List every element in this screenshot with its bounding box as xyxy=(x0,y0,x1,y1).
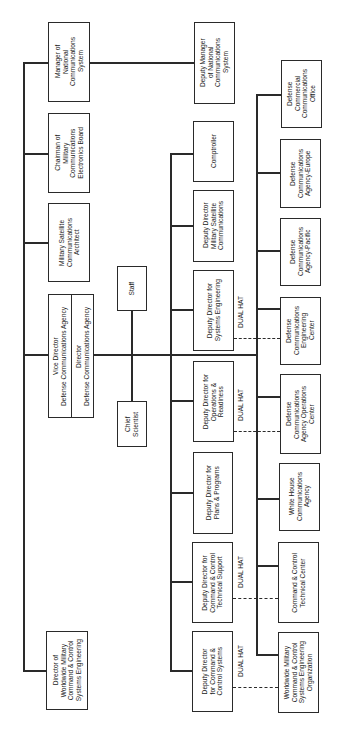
connector xyxy=(170,400,193,402)
dual-hat-label: DUAL HAT xyxy=(237,556,245,588)
connector xyxy=(89,62,194,64)
vice-director-section: Vice Director Defense Communications Age… xyxy=(49,295,72,417)
wwmccs-seo-box: Worldwide Military Command & Control Sys… xyxy=(278,632,319,713)
dca-pacific-box: Defense Communications Agency-Pacific xyxy=(280,218,321,286)
connector xyxy=(256,94,281,96)
dd-plans-programs-label: Deputy Director for Plans & Programs xyxy=(205,465,220,520)
mil-sat-architect-label: Military Satellite Communications Archit… xyxy=(58,218,81,267)
connector xyxy=(23,242,49,244)
dd-sys-eng-label: Deputy Director for Systems Engineering xyxy=(206,279,221,341)
connector xyxy=(170,309,193,311)
connector xyxy=(256,565,279,567)
manager-ncs-box: Manager of National Communications Syste… xyxy=(48,22,90,102)
connector xyxy=(256,498,280,500)
connector xyxy=(170,581,193,583)
dcco-box: Defense Commercial Communications Office xyxy=(281,60,322,128)
dca-europe-label: Defense Communications Agency-Europe xyxy=(289,149,312,198)
connector xyxy=(256,250,281,252)
deputy-manager-ncs-box: Deputy Manager of National Communication… xyxy=(194,22,235,104)
chairman-mceb-label: Chairman of Military Communications Elec… xyxy=(54,127,84,179)
staff-stem xyxy=(131,310,133,402)
whca-label: White House Communications Agency xyxy=(288,472,311,521)
connector xyxy=(170,225,193,227)
connector xyxy=(23,153,49,155)
chief-scientist-box: Chief Scientist xyxy=(117,401,147,447)
whca-box: White House Communications Agency xyxy=(279,463,320,531)
dd-cc-systems-label: Deputy Director for Command & Control Sy… xyxy=(201,647,224,695)
dca-ops-center-label: Defense Communications Agency Operations… xyxy=(285,386,315,442)
staff-box: Staff xyxy=(117,266,147,311)
middle-bus-line xyxy=(170,153,172,671)
dual-hat-connector xyxy=(233,687,278,688)
right-bus-line xyxy=(256,94,258,655)
vice-director-dca-label: Vice Director Defense Communications Age… xyxy=(52,307,67,406)
dd-cc-systems-box: Deputy Director for Command & Control Sy… xyxy=(192,631,233,712)
connector xyxy=(23,670,47,672)
dd-mil-sat-label: Deputy Director Military Satellite Commu… xyxy=(202,201,225,250)
dd-cc-tech-support-label: Deputy Director for Command & Control Te… xyxy=(201,553,224,613)
director-dca-label: Director Defense Communications Agency xyxy=(75,307,90,406)
connector xyxy=(23,62,49,64)
connector xyxy=(256,172,281,174)
connector xyxy=(256,308,281,310)
dd-plans-programs-box: Deputy Director for Plans & Programs xyxy=(193,452,233,534)
connector xyxy=(170,492,193,494)
connector xyxy=(256,396,281,398)
director-wwmccs-eng-label: Director of Worldwide Military Command &… xyxy=(52,639,82,701)
dd-ops-readiness-box: Deputy Director for Operations & Readine… xyxy=(193,361,234,442)
connector xyxy=(170,670,193,672)
dual-hat-label: DUAL HAT xyxy=(237,296,245,328)
staff-label: Staff xyxy=(128,282,136,295)
dcco-label: Defense Commercial Communications Office xyxy=(286,69,316,118)
connector xyxy=(170,153,193,155)
dd-ops-readiness-label: Deputy Director for Operations & Readine… xyxy=(202,374,225,429)
dual-hat-label: DUAL HAT xyxy=(237,389,245,421)
comptroller-box: Comptroller xyxy=(193,121,234,182)
manager-ncs-label: Manager of National Communications Syste… xyxy=(54,37,84,86)
mil-sat-architect-box: Military Satellite Communications Archit… xyxy=(48,203,90,282)
dual-hat-label: DUAL HAT xyxy=(237,645,245,677)
dca-pacific-label: Defense Communications Agency-Pacific xyxy=(289,227,312,276)
dca-ops-center-box: Defense Communications Agency Operations… xyxy=(280,374,321,454)
chairman-mceb-box: Chairman of Military Communications Elec… xyxy=(48,113,90,193)
director-main-line xyxy=(93,354,257,356)
wwmccs-seo-label: Worldwide Military Command & Control Sys… xyxy=(283,641,313,703)
director-wwmccs-eng-box: Director of Worldwide Military Command &… xyxy=(46,631,88,710)
connector xyxy=(23,354,49,356)
connector xyxy=(256,654,279,656)
dca-europe-box: Defense Communications Agency-Europe xyxy=(280,139,321,208)
cctc-label: Command & Control Technical Center xyxy=(291,553,306,613)
dd-mil-sat-box: Deputy Director Military Satellite Commu… xyxy=(193,190,234,262)
deputy-manager-ncs-label: Deputy Manager of National Communication… xyxy=(199,38,229,87)
dcec-label: Defense Communications Engineering Cente… xyxy=(285,306,315,355)
director-section: Director Defense Communications Agency xyxy=(72,295,94,417)
director-dca-box: Director Defense Communications Agency V… xyxy=(48,294,94,418)
dd-cc-tech-support-box: Deputy Director for Command & Control Te… xyxy=(192,542,233,623)
comptroller-label: Comptroller xyxy=(210,134,218,168)
cctc-box: Command & Control Technical Center xyxy=(278,542,319,623)
dcec-box: Defense Communications Engineering Cente… xyxy=(280,297,321,365)
chief-scientist-label: Chief Scientist xyxy=(124,412,139,437)
dd-sys-eng-box: Deputy Director for Systems Engineering xyxy=(193,270,234,351)
